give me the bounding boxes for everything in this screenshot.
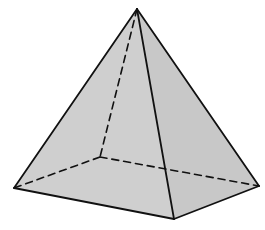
pyramid-figure xyxy=(0,0,265,230)
pyramid-svg xyxy=(0,0,265,230)
